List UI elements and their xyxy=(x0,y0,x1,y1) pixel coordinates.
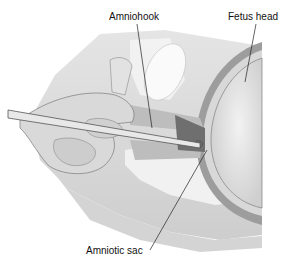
diagram-canvas: Amniohook Fetus head Amniotic sac xyxy=(0,0,283,266)
label-amniohook: Amniohook xyxy=(109,11,159,23)
illustration xyxy=(0,0,283,266)
label-amniotic-sac: Amniotic sac xyxy=(86,245,143,257)
label-fetus-head: Fetus head xyxy=(228,11,278,23)
